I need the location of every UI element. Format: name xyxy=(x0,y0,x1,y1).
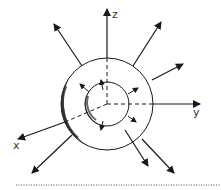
x-axis-label: x xyxy=(13,139,20,152)
outer-arrow xyxy=(32,135,72,173)
inner-arrow xyxy=(128,116,136,122)
outer-arrow xyxy=(125,130,148,166)
outer-arrow xyxy=(142,139,174,173)
inner-arrow xyxy=(80,84,89,92)
shell-diagram: z y x xyxy=(0,0,221,190)
outer-arrow xyxy=(152,64,183,80)
z-axis-label: z xyxy=(112,8,118,21)
outer-arrow xyxy=(133,22,161,66)
x-axis xyxy=(18,122,65,139)
inner-arrow xyxy=(101,80,103,90)
inner-arrow xyxy=(128,88,138,94)
outer-arrow xyxy=(54,24,82,66)
y-axis-label: y xyxy=(193,106,200,119)
